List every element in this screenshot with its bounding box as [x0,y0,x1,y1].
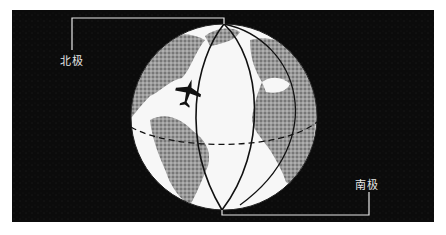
north-pole-label: 北极 [60,52,84,68]
south-pole-label: 南极 [355,176,379,192]
globe-diagram [0,0,446,235]
globe [131,24,317,210]
